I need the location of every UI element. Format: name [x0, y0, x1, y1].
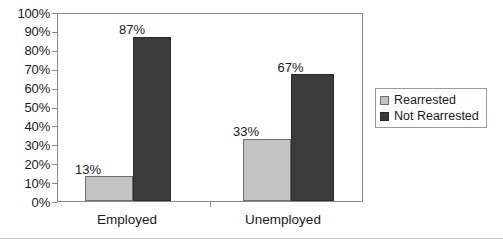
- legend-label-rearrested: Rearrested: [394, 94, 456, 107]
- value-label-employed-not-rearrested: 87%: [113, 23, 151, 36]
- y-tick-label-40: 40%: [0, 120, 50, 133]
- legend-label-not-rearrested: Not Rearrested: [394, 110, 479, 123]
- y-tick-label-50: 50%: [0, 101, 50, 114]
- bar-unemployed-not-rearrested[interactable]: [291, 74, 334, 201]
- y-tick-label-100: 100%: [0, 7, 50, 20]
- value-label-employed-rearrested: 13%: [64, 163, 112, 176]
- y-tick-label-20: 20%: [0, 158, 50, 171]
- y-tick-label-10: 10%: [0, 177, 50, 190]
- y-tick-label-0: 0%: [0, 196, 50, 209]
- legend-item-rearrested[interactable]: Rearrested: [380, 92, 482, 108]
- page-divider: [0, 238, 503, 239]
- y-tick-label-30: 30%: [0, 139, 50, 152]
- value-label-unemployed-rearrested: 33%: [222, 125, 270, 138]
- y-tick-mark-0: [52, 202, 57, 203]
- legend-swatch-icon-rearrested: [380, 96, 389, 105]
- y-tick-label-70: 70%: [0, 63, 50, 76]
- legend-item-not-rearrested[interactable]: Not Rearrested: [380, 108, 482, 124]
- legend: Rearrested Not Rearrested: [375, 88, 487, 128]
- y-tick-label-60: 60%: [0, 82, 50, 95]
- y-tick-label-90: 90%: [0, 25, 50, 38]
- y-axis: 100% 90% 80% 70% 60% 50% 40% 30% 20% 10%…: [0, 13, 50, 202]
- x-tick-separator: [210, 202, 211, 207]
- bar-employed-rearrested[interactable]: [85, 176, 133, 201]
- x-label-employed: Employed: [72, 212, 182, 227]
- bar-unemployed-rearrested[interactable]: [243, 139, 291, 201]
- legend-swatch-icon-not-rearrested: [380, 112, 389, 121]
- bar-employed-not-rearrested[interactable]: [133, 37, 171, 201]
- x-label-unemployed: Unemployed: [228, 212, 338, 227]
- value-label-unemployed-not-rearrested: 67%: [269, 61, 312, 74]
- y-tick-label-80: 80%: [0, 44, 50, 57]
- bar-chart: 100% 90% 80% 70% 60% 50% 40% 30% 20% 10%…: [0, 0, 503, 247]
